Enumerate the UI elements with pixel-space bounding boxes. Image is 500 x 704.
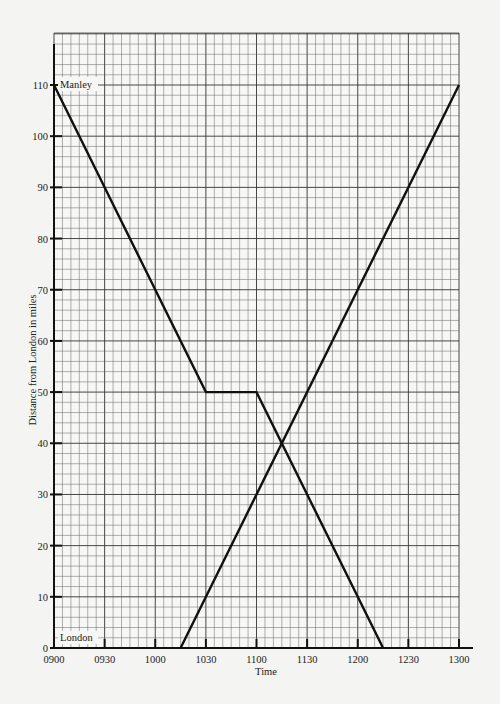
y-tick-label: 70 xyxy=(38,285,49,296)
y-axis-title: Distance from London in miles xyxy=(27,294,38,425)
x-tick-label: 1030 xyxy=(195,654,216,665)
y-tick-label: 110 xyxy=(33,80,48,91)
x-axis-title: Time xyxy=(255,666,277,677)
y-tick-label: 50 xyxy=(38,387,49,398)
distance-time-chart: 0102030405060708090100110090009301000103… xyxy=(0,0,500,704)
x-tick-label: 1000 xyxy=(145,654,166,665)
y-tick-label: 60 xyxy=(38,336,49,347)
x-tick-label: 1230 xyxy=(398,654,419,665)
y-tick-label: 80 xyxy=(38,234,49,245)
x-tick-label: 1100 xyxy=(246,654,267,665)
x-tick-label: 1130 xyxy=(297,654,318,665)
y-tick-label: 20 xyxy=(38,541,49,552)
y-tick-label: 40 xyxy=(38,438,49,449)
y-tick-label: 10 xyxy=(38,592,49,603)
x-tick-label: 0900 xyxy=(44,654,65,665)
y-tick-label: 90 xyxy=(38,182,49,193)
y-tick-label: 30 xyxy=(38,489,49,500)
y-tick-label: 0 xyxy=(43,643,48,654)
y-tick-label: 100 xyxy=(32,131,48,142)
x-tick-label: 1200 xyxy=(347,654,368,665)
london-label: London xyxy=(60,632,93,643)
manley-label: Manley xyxy=(60,79,93,90)
x-tick-label: 1300 xyxy=(449,654,470,665)
x-tick-label: 0930 xyxy=(94,654,115,665)
